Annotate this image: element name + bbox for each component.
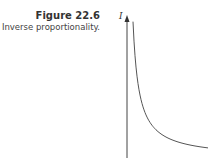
y-axis-arrow-icon — [125, 15, 130, 22]
inverse-curve — [133, 22, 208, 149]
chart-plot: I — [0, 0, 208, 159]
y-axis-label: I — [118, 11, 123, 21]
